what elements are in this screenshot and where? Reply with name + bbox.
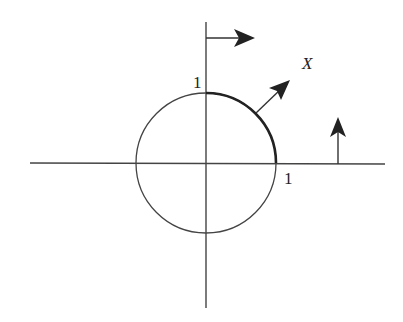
vector-field-label: X [301, 54, 313, 73]
y-tick-label: 1 [193, 73, 202, 92]
x-tick-label: 1 [284, 169, 293, 188]
unit-circle-diagram: 1 1 X [0, 0, 403, 322]
diagram-canvas: 1 1 X [0, 0, 403, 322]
horizontal-axis [30, 163, 385, 164]
